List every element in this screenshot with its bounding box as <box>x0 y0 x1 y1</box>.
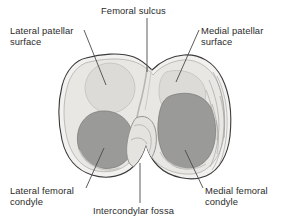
label-lateral-patellar-surface-line1: Lateral patellar <box>10 25 74 36</box>
lateral-patellar-surface-region <box>85 63 135 113</box>
label-lateral-femoral-condyle-line1: Lateral femoral <box>10 185 74 196</box>
label-lateral-patellar-surface: Lateral patellarsurface <box>10 25 74 48</box>
label-lateral-femoral-condyle-line2: condyle <box>10 196 43 207</box>
medial-femoral-condyle-region <box>158 93 216 169</box>
label-medial-femoral-condyle: Medial femoralcondyle <box>205 185 268 208</box>
label-lateral-patellar-surface-line2: surface <box>10 36 41 47</box>
label-intercondylar-fossa: Intercondylar fossa <box>93 205 174 216</box>
label-intercondylar-fossa-text: Intercondylar fossa <box>93 205 174 216</box>
label-femoral-sulcus-text: Femoral sulcus <box>101 5 166 16</box>
label-femoral-sulcus: Femoral sulcus <box>101 5 166 16</box>
label-lateral-femoral-condyle: Lateral femoralcondyle <box>10 185 74 208</box>
label-medial-patellar-surface-line1: Medial patellar <box>201 25 263 36</box>
label-medial-patellar-surface-line2: surface <box>201 36 232 47</box>
label-medial-patellar-surface: Medial patellarsurface <box>201 25 263 48</box>
anatomy-figure: Femoral sulcus Lateral patellarsurface M… <box>0 0 294 223</box>
label-medial-femoral-condyle-line1: Medial femoral <box>205 185 268 196</box>
label-medial-femoral-condyle-line2: condyle <box>205 196 238 207</box>
